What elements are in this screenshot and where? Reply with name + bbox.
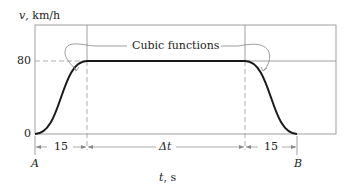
y-axis-label: v, km/h (19, 10, 60, 21)
x-axis-unit: , s (163, 171, 176, 184)
x-axis-label: t, s (159, 172, 176, 183)
cubic-functions-annotation: Cubic functions (130, 40, 221, 51)
dim-arrow-icon (246, 145, 251, 149)
dim-arrow-icon (88, 145, 93, 149)
interval-label-delta-t: Δt (159, 141, 171, 152)
y-axis-unit: , km/h (25, 9, 60, 22)
dim-arrow-icon (291, 145, 296, 149)
dim-arrow-icon (239, 145, 244, 149)
dim-arrow-icon (81, 145, 86, 149)
interval-label-1: 15 (54, 141, 68, 152)
velocity-curve (35, 61, 297, 134)
point-B-label: B (294, 158, 302, 169)
y-tick-0: 0 (24, 128, 31, 139)
point-A-label: A (31, 158, 39, 169)
y-tick-80: 80 (17, 55, 31, 66)
dim-arrow-icon (36, 145, 41, 149)
interval-label-3: 15 (264, 141, 278, 152)
